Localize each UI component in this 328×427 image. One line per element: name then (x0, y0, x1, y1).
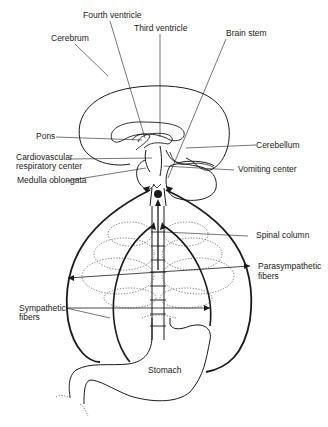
label-medulla-oblongata: Medulla oblongata (17, 176, 86, 186)
vomiting-center-dot (154, 190, 162, 198)
fourth-ventricle-shape (132, 134, 150, 150)
cerebrum-outline (79, 86, 229, 170)
spinal-cord-arrowhead (155, 199, 161, 206)
label-parasympathetic-fibers: fibers (258, 272, 279, 282)
label-respiratory-center: respiratory center (16, 162, 82, 172)
label-spinal-column: Spinal column (256, 231, 309, 241)
label-stomach: Stomach (148, 366, 182, 376)
label-vomiting-center: Vomiting center (238, 165, 297, 175)
third-ventricle-shape (138, 133, 172, 148)
label-pons: Pons (36, 132, 55, 142)
stomach-outline (69, 318, 210, 404)
label-sympathetic-fibers: fibers (19, 313, 40, 323)
parasympathetic-connector (68, 266, 250, 278)
leader-lines (56, 21, 256, 318)
connector-arrowheads (68, 263, 250, 311)
diagram-canvas (0, 0, 328, 427)
label-third-ventricle: Third ventricle (134, 24, 187, 34)
label-cerebrum: Cerebrum (51, 34, 89, 44)
pons-outline (137, 160, 154, 189)
label-cerebellum: Cerebellum (256, 141, 299, 151)
cerebellum-outline (166, 164, 216, 201)
label-brain-stem: Brain stem (226, 29, 267, 39)
label-fourth-ventricle: Fourth ventricle (83, 11, 142, 21)
outer-fiber-loop (67, 190, 252, 372)
